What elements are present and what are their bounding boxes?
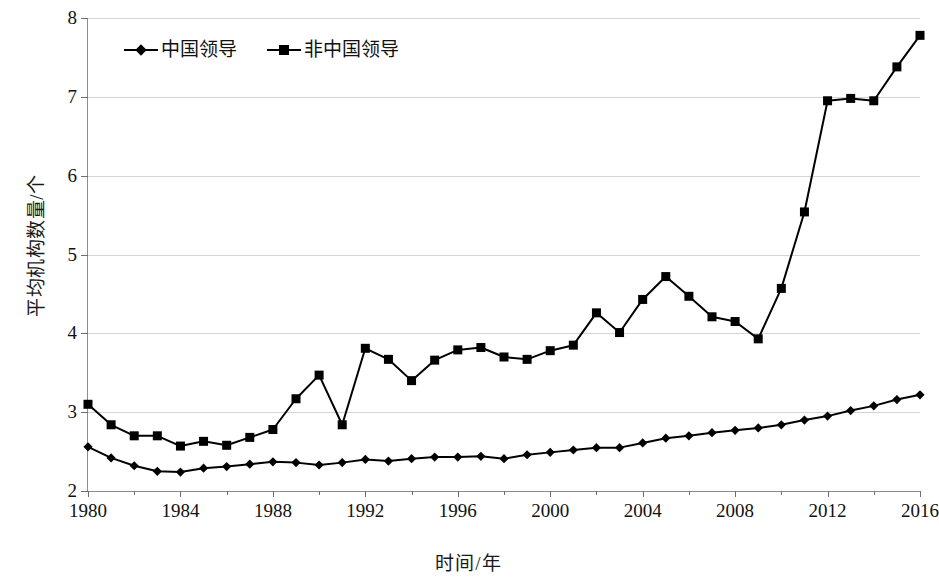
square-marker-icon — [661, 272, 670, 281]
square-marker-icon — [292, 394, 301, 403]
square-marker-icon — [407, 376, 416, 385]
x-tick-mark — [828, 491, 829, 497]
x-tick-label: 2008 — [716, 500, 754, 522]
series-china — [83, 390, 924, 476]
square-marker-icon — [453, 345, 462, 354]
x-tick-mark-minor — [781, 491, 782, 495]
x-tick-mark — [88, 491, 89, 497]
square-marker-icon — [176, 442, 185, 451]
square-marker-icon — [823, 96, 832, 105]
diamond-marker-icon — [476, 452, 485, 461]
x-tick-mark-minor — [319, 491, 320, 495]
x-tick-label: 2016 — [901, 500, 939, 522]
x-tick-mark — [643, 491, 644, 497]
x-tick-mark — [458, 491, 459, 497]
square-marker-icon — [684, 292, 693, 301]
x-tick-mark-minor — [596, 491, 597, 495]
y-tick-label: 6 — [68, 165, 78, 187]
y-axis-title: 平均机构数量/个 — [21, 116, 48, 376]
y-tick-mark — [81, 176, 88, 177]
x-tick-mark — [273, 491, 274, 497]
diamond-marker-icon — [130, 461, 139, 470]
square-marker-icon — [846, 94, 855, 103]
square-marker-icon — [592, 308, 601, 317]
y-tick-label: 7 — [68, 86, 78, 108]
diamond-marker-icon — [361, 455, 370, 464]
square-marker-icon — [107, 420, 116, 429]
diamond-marker-icon — [638, 438, 647, 447]
x-tick-mark — [920, 491, 921, 497]
y-tick-mark — [81, 97, 88, 98]
x-tick-mark-minor — [504, 491, 505, 495]
diamond-marker-icon — [338, 458, 347, 467]
x-tick-label: 1992 — [346, 500, 384, 522]
x-tick-label: 1988 — [254, 500, 292, 522]
diamond-marker-icon — [754, 423, 763, 432]
x-tick-label: 1984 — [161, 500, 199, 522]
x-tick-mark-minor — [134, 491, 135, 495]
x-tick-mark — [550, 491, 551, 497]
square-marker-icon — [916, 31, 925, 40]
square-marker-icon — [430, 356, 439, 365]
legend-entry-china: 中国领导 — [124, 40, 237, 59]
diamond-marker-icon — [407, 454, 416, 463]
legend-label-china: 中国领导 — [161, 40, 237, 59]
square-marker-icon — [754, 334, 763, 343]
y-tick-label: 4 — [68, 322, 78, 344]
square-marker-icon — [500, 352, 509, 361]
square-marker-icon — [869, 96, 878, 105]
y-tick-label: 3 — [68, 401, 78, 423]
diamond-marker-icon — [684, 431, 693, 440]
y-tick-mark — [81, 491, 88, 492]
x-tick-mark-minor — [689, 491, 690, 495]
diamond-marker-icon — [315, 460, 324, 469]
diamond-marker-icon — [707, 428, 716, 437]
plot-area: 2345678 19801984198819921996200020042008… — [88, 18, 920, 491]
diamond-marker-icon — [199, 464, 208, 473]
y-tick-mark — [81, 333, 88, 334]
square-marker-icon — [384, 355, 393, 364]
y-tick-label: 5 — [68, 244, 78, 266]
diamond-marker-icon — [661, 434, 670, 443]
x-tick-mark-minor — [227, 491, 228, 495]
diamond-marker-icon — [846, 406, 855, 415]
y-tick-mark — [81, 18, 88, 19]
square-marker-icon — [222, 441, 231, 450]
diamond-marker-icon — [615, 443, 624, 452]
diamond-marker-icon — [176, 467, 185, 476]
diamond-marker-icon — [915, 390, 924, 399]
diamond-marker-icon — [430, 453, 439, 462]
y-tick-label: 2 — [68, 480, 78, 502]
square-marker-icon — [245, 433, 254, 442]
square-marker-icon — [569, 341, 578, 350]
diamond-marker-icon — [523, 450, 532, 459]
square-marker-icon — [731, 317, 740, 326]
legend-entry-non-china: 非中国领导 — [267, 40, 399, 59]
diamond-marker-icon — [892, 395, 901, 404]
diamond-marker-icon — [153, 467, 162, 476]
square-marker-icon — [523, 355, 532, 364]
square-marker-icon — [84, 400, 93, 409]
diamond-marker-icon — [546, 448, 555, 457]
square-marker-icon — [338, 420, 347, 429]
square-marker-icon — [708, 312, 717, 321]
square-marker-icon — [361, 344, 370, 353]
square-marker-icon — [315, 371, 324, 380]
square-marker-icon — [130, 431, 139, 440]
diamond-marker-icon — [291, 458, 300, 467]
x-tick-mark-minor — [874, 491, 875, 495]
diamond-marker-icon — [222, 462, 231, 471]
diamond-marker-icon — [869, 401, 878, 410]
legend-label-non-china: 非中国领导 — [304, 40, 399, 59]
x-tick-label: 1996 — [439, 500, 477, 522]
x-tick-mark — [365, 491, 366, 497]
x-tick-label: 2000 — [531, 500, 569, 522]
diamond-marker-icon — [731, 426, 740, 435]
x-tick-mark — [180, 491, 181, 497]
square-marker-icon — [476, 343, 485, 352]
square-marker-icon — [546, 346, 555, 355]
x-tick-label: 1980 — [69, 500, 107, 522]
square-marker-icon — [267, 44, 301, 56]
x-tick-label: 2012 — [809, 500, 847, 522]
